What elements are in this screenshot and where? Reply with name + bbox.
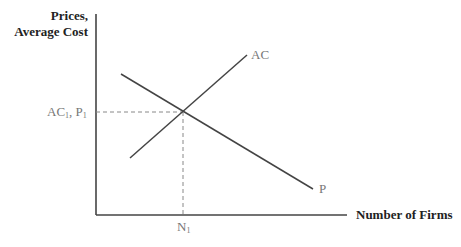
y-axis-label-line1: Prices, bbox=[14, 8, 88, 24]
chart-stage: Prices, Average Cost Number of Firms AC … bbox=[0, 0, 461, 247]
y-axis-label: Prices, Average Cost bbox=[14, 8, 88, 40]
x-axis-label: Number of Firms bbox=[356, 207, 453, 223]
x-tick-sub: 1 bbox=[186, 226, 190, 235]
y-tick-ac: AC bbox=[47, 104, 65, 119]
x-tick-equilibrium: N1 bbox=[177, 219, 190, 235]
ac-curve-label: AC bbox=[251, 47, 269, 63]
p-curve bbox=[121, 74, 313, 189]
y-tick-sub2: 1 bbox=[83, 111, 87, 120]
y-tick-equilibrium: AC1, P1 bbox=[47, 104, 87, 120]
p-curve-label: P bbox=[319, 181, 326, 197]
y-axis-label-line2: Average Cost bbox=[14, 24, 88, 40]
y-tick-sep: , P bbox=[69, 104, 83, 119]
ac-curve bbox=[130, 55, 247, 158]
x-tick-n: N bbox=[177, 219, 186, 234]
